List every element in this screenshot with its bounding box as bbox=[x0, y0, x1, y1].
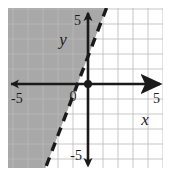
linear-inequality-graph: -5 5 5 -5 0 y x bbox=[0, 0, 175, 182]
x-axis-label: x bbox=[140, 110, 149, 129]
coordinate-plane: -5 5 5 -5 0 y x bbox=[0, 0, 175, 182]
y-negative-tick-label: -5 bbox=[70, 148, 82, 163]
y-positive-tick-label: 5 bbox=[74, 13, 81, 28]
x-negative-tick-label: -5 bbox=[11, 91, 23, 106]
origin-dot bbox=[84, 80, 92, 88]
x-positive-tick-label: 5 bbox=[153, 91, 160, 106]
origin-label: 0 bbox=[70, 89, 77, 104]
y-axis-label: y bbox=[57, 30, 67, 49]
